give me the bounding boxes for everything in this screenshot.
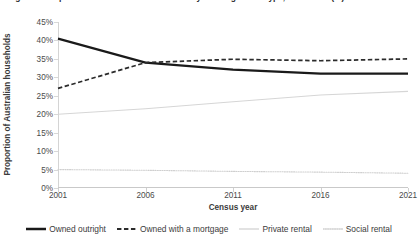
legend-label: Owned with a mortgage [140,224,228,234]
legend-marker-icon [239,225,259,233]
chart-title: Figure 1: Proportion of Australian house… [8,0,412,4]
plot-area [58,22,408,188]
legend-item[interactable]: Owned outright [26,224,106,234]
legend-item[interactable]: Owned with a mortgage [117,224,228,234]
y-axis-tick: 20% [37,110,53,119]
legend-marker-icon [117,225,137,233]
chart-figure: Figure 1: Proportion of Australian house… [0,0,418,245]
y-axis-tick: 45% [37,18,53,27]
y-axis-tick: 25% [37,91,53,100]
chart-legend: Owned outrightOwned with a mortgagePriva… [0,224,418,234]
series-line [58,170,408,174]
y-axis-tick: 5% [41,165,53,174]
x-axis-tick: 2006 [136,191,154,200]
y-axis-tick: 30% [37,73,53,82]
x-axis-tick: 2001 [49,191,67,200]
y-axis-tick: 10% [37,147,53,156]
y-axis-tick: 40% [37,36,53,45]
series-line [58,91,408,114]
x-axis-tick: 2021 [399,191,417,200]
legend-item[interactable]: Social rental [323,224,392,234]
legend-item[interactable]: Private rental [239,224,311,234]
y-axis-title: Proportion of Australian households [0,18,14,190]
y-axis-tick: 15% [37,128,53,137]
x-axis-tick: 2016 [311,191,329,200]
y-axis-tick-labels: 0%5%10%15%20%25%30%35%40%45% [16,16,56,192]
legend-label: Social rental [346,224,392,234]
x-axis-title: Census year [58,203,408,212]
legend-label: Owned outright [49,224,106,234]
legend-label: Private rental [262,224,311,234]
series-line [58,39,408,74]
x-axis-tick: 2011 [224,191,242,200]
y-axis-tick: 35% [37,54,53,63]
legend-marker-icon [26,225,46,233]
series-lines [58,22,408,188]
legend-marker-icon [323,225,343,233]
y-axis-title-label: Proportion of Australian households [3,33,12,175]
